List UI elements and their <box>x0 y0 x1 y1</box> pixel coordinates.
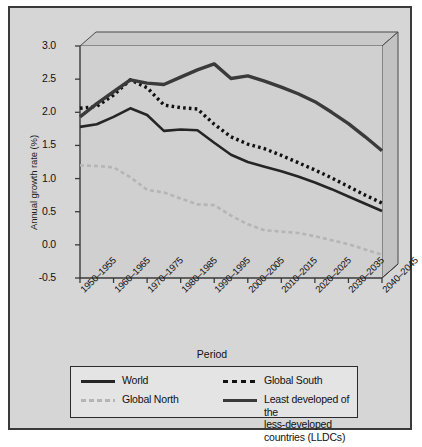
y-tick-label: 0.0 <box>26 238 56 250</box>
legend-swatch-solid-lldc <box>223 395 257 407</box>
plot-panel <box>80 46 382 278</box>
y-tick-label: -0.5 <box>26 271 56 283</box>
y-tick-label: 2.5 <box>26 72 56 84</box>
plot-side-face <box>382 32 398 278</box>
figure-frame: Annual growth rate (%) 3.02.52.01.51.00.… <box>8 6 412 430</box>
y-axis-title: Annual growth rate (%) <box>6 0 17 92</box>
legend-label-line2: less-developed countries (LLDCs) <box>264 418 345 443</box>
legend-label: Global South <box>257 374 322 387</box>
y-tick-label: 0.5 <box>26 205 56 217</box>
chart-legend: WorldGlobal SouthGlobal NorthLeast devel… <box>70 366 358 418</box>
legend-label: Least developed of theless-developed cou… <box>257 393 357 443</box>
legend-item[interactable]: World <box>81 374 148 388</box>
chart-canvas <box>62 28 402 296</box>
legend-swatch-dot-south <box>223 376 257 388</box>
y-tick-label: 3.0 <box>26 39 56 51</box>
plot-top-face <box>80 32 398 46</box>
legend-swatch-solid-world <box>81 376 115 388</box>
legend-item[interactable]: Least developed of theless-developed cou… <box>223 393 357 443</box>
y-tick-label: 2.0 <box>26 105 56 117</box>
y-tick-label: 1.5 <box>26 138 56 150</box>
legend-swatch-dash-north <box>81 395 115 407</box>
plot-area <box>62 28 402 296</box>
y-axis-tick-labels: 3.02.52.01.51.00.50.0-0.5 <box>24 28 56 296</box>
legend-label: World <box>115 374 148 387</box>
legend-label: Global North <box>115 393 179 406</box>
legend-item[interactable]: Global North <box>81 393 179 407</box>
x-axis-title: Period <box>10 348 414 360</box>
legend-item[interactable]: Global South <box>223 374 322 388</box>
y-tick-label: 1.0 <box>26 172 56 184</box>
